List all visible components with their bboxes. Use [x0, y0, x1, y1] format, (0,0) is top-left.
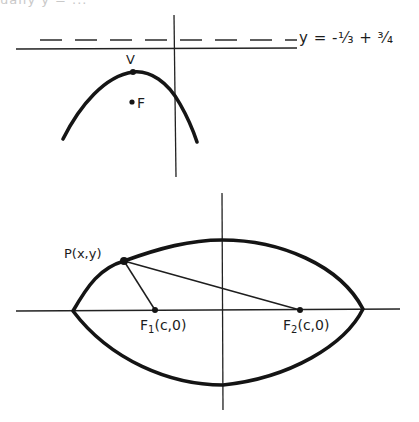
point-p-label: P(x,y): [64, 247, 102, 260]
focus2-point: [297, 307, 303, 313]
focus-point: [129, 99, 134, 104]
vertex-point: [130, 69, 136, 75]
focus1-letter: F: [140, 317, 148, 333]
focus1-point: [152, 307, 158, 313]
focus1-label: F1(c,0): [140, 318, 186, 335]
bottom-y-axis: [222, 193, 223, 410]
ellipse-figure: [16, 193, 400, 410]
top-x-axis: [16, 48, 297, 49]
focus2-letter: F: [283, 317, 291, 333]
cut-off-header-text: ually y = ...: [0, 0, 88, 6]
point-p: [120, 257, 128, 265]
parabola-figure: [16, 15, 297, 177]
ellipse-curve: [73, 240, 363, 385]
vertex-label: V: [126, 53, 135, 66]
conic-sections-figure: [0, 0, 419, 422]
diagram-stage: ually y = ... y = -¹⁄₃ + ³⁄₄ V F P(x,y) …: [0, 0, 419, 422]
focus2-label: F2(c,0): [283, 318, 329, 335]
parabola-curve: [63, 72, 197, 142]
focus2-coords: (c,0): [297, 317, 329, 333]
focus-label: F: [137, 96, 145, 110]
directrix-label: y = -¹⁄₃ + ³⁄₄: [299, 31, 394, 46]
focus1-coords: (c,0): [154, 317, 186, 333]
